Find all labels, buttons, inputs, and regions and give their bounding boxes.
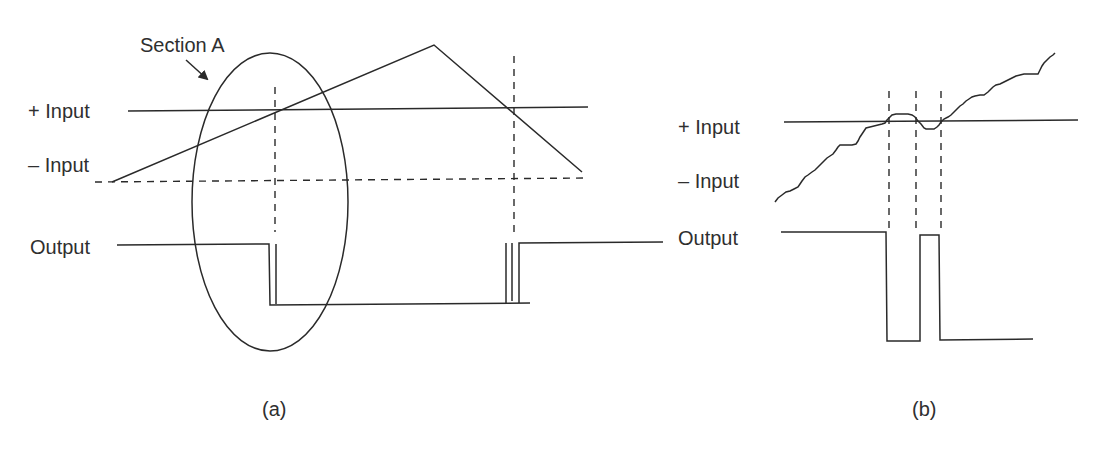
panel-a: Section A + Input – Input Output (a) bbox=[28, 34, 663, 420]
section-a-label: Section A bbox=[140, 34, 225, 56]
minus-input-label-b: – Input bbox=[678, 170, 740, 192]
section-a-ellipse bbox=[192, 53, 348, 351]
caption-a: (a) bbox=[262, 398, 286, 420]
noisy-input-signal bbox=[775, 53, 1055, 202]
output-label-b: Output bbox=[678, 227, 738, 249]
section-a-arrow-icon bbox=[186, 60, 207, 79]
plus-input-label-b: + Input bbox=[678, 116, 740, 138]
minus-input-label-a: – Input bbox=[28, 154, 90, 176]
plus-input-label-a: + Input bbox=[28, 100, 90, 122]
minus-input-baseline-a bbox=[95, 178, 586, 182]
output-waveform-a-low bbox=[117, 244, 530, 305]
plus-input-line-b bbox=[784, 120, 1078, 122]
output-waveform-a-high bbox=[519, 242, 663, 303]
comparator-diagram: Section A + Input – Input Output (a) + I… bbox=[0, 0, 1104, 459]
caption-b: (b) bbox=[912, 398, 936, 420]
plus-input-line-a bbox=[128, 107, 588, 111]
output-waveform-b bbox=[781, 232, 1033, 341]
triangle-input-signal bbox=[112, 45, 582, 182]
output-label-a: Output bbox=[30, 236, 90, 258]
panel-b: + Input – Input Output (b) bbox=[678, 53, 1078, 420]
